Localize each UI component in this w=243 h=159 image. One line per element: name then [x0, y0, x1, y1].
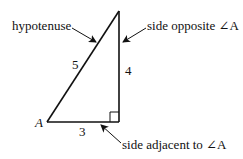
opposite-annotation: side opposite ∠A: [147, 18, 239, 33]
hypotenuse-length: 5: [72, 57, 79, 72]
adjacent-arrow: [101, 125, 121, 143]
adjacent-annotation: side adjacent to ∠A: [122, 137, 227, 152]
right-triangle-diagram: 5 4 3 A hypotenuse side opposite ∠A side…: [0, 0, 243, 159]
opposite-arrow: [123, 28, 146, 42]
hypotenuse-arrow: [72, 28, 96, 42]
adjacent-length: 3: [79, 124, 86, 139]
vertex-a-label: A: [34, 115, 43, 130]
hypotenuse-annotation: hypotenuse: [12, 18, 71, 33]
right-angle-marker: [110, 112, 119, 122]
opposite-length: 4: [125, 63, 132, 78]
